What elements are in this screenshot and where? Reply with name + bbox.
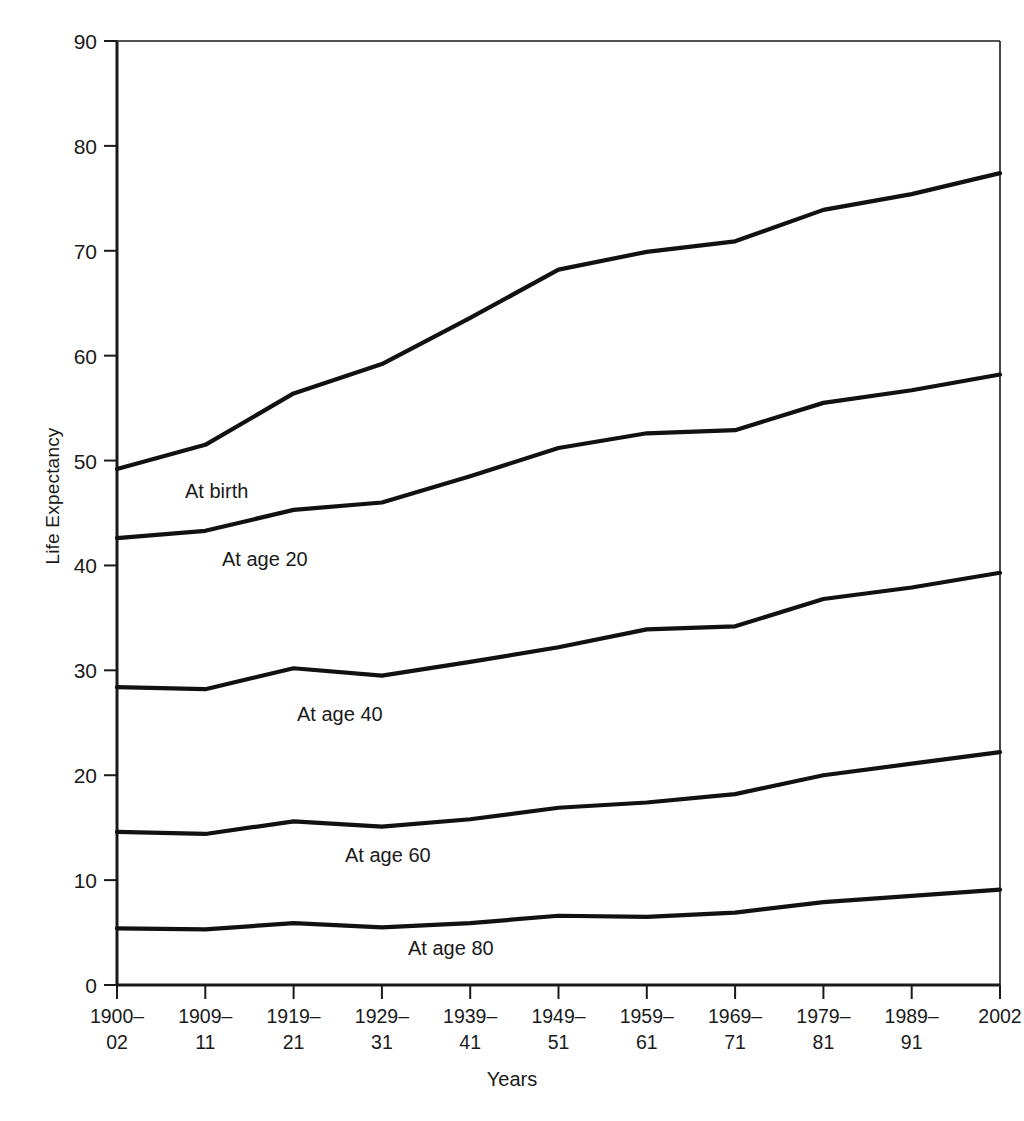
series-line-at-age-40: [117, 573, 1000, 689]
x-tick-label-second-line: 11: [195, 1031, 215, 1053]
y-tick-label: 20: [74, 764, 97, 787]
x-tick-label: 1989–: [885, 1005, 939, 1027]
y-tick-label: 90: [74, 30, 97, 53]
series-label-at-age-80: At age 80: [408, 937, 494, 959]
series-line-at-age-20: [117, 375, 1000, 539]
x-tick-label-second-line: 71: [724, 1031, 746, 1053]
x-tick-label-second-line: 91: [901, 1031, 923, 1053]
y-tick-label: 30: [74, 659, 97, 682]
series-label-at-age-20: At age 20: [222, 548, 308, 570]
life-expectancy-chart: Life Expectancy 0102030405060708090 1900…: [0, 0, 1024, 1121]
y-tick-label: 40: [74, 554, 97, 577]
x-tick-label-second-line: 41: [459, 1031, 481, 1053]
x-tick-label: 1939–: [443, 1005, 497, 1027]
x-tick-label: 1979–: [796, 1005, 850, 1027]
x-tick-label-second-line: 61: [636, 1031, 658, 1053]
plot-area: 0102030405060708090 1900–021909–111919–2…: [0, 0, 1024, 1121]
x-tick-label: 1969–: [708, 1005, 762, 1027]
x-tick-label-second-line: 02: [106, 1031, 128, 1053]
series-label-at-age-60: At age 60: [345, 844, 431, 866]
axis-lines: [117, 41, 1000, 985]
y-axis-ticks: 0102030405060708090: [74, 30, 117, 997]
y-tick-label: 0: [85, 974, 97, 997]
series-line-at-age-80: [117, 890, 1000, 930]
series-line-at-age-60: [117, 752, 1000, 834]
y-tick-label: 80: [74, 135, 97, 158]
y-tick-label: 50: [74, 450, 97, 473]
x-tick-label: 1959–: [620, 1005, 674, 1027]
x-tick-label: 1929–: [355, 1005, 409, 1027]
x-tick-label: 1949–: [531, 1005, 585, 1027]
x-tick-label: 1909–: [178, 1005, 232, 1027]
x-tick-label-second-line: 81: [813, 1031, 835, 1053]
series-line-at-birth: [117, 173, 1000, 469]
series-label-at-age-40: At age 40: [297, 703, 383, 725]
x-tick-label: 1919–: [266, 1005, 320, 1027]
series-label-at-birth: At birth: [185, 480, 248, 502]
x-axis-title: Years: [0, 1068, 1024, 1091]
x-axis-ticks: 1900–021909–111919–211929–311939–411949–…: [90, 985, 1022, 1053]
x-tick-label-second-line: 51: [548, 1031, 570, 1053]
x-tick-label: 1900–: [90, 1005, 144, 1027]
x-tick-label-second-line: 31: [371, 1031, 393, 1053]
y-tick-label: 60: [74, 345, 97, 368]
x-tick-label: 2002: [978, 1005, 1021, 1027]
y-tick-label: 70: [74, 240, 97, 263]
x-tick-label-second-line: 21: [283, 1031, 305, 1053]
series-label-group: At birthAt age 20At age 40At age 60At ag…: [185, 480, 494, 959]
y-tick-label: 10: [74, 869, 97, 892]
